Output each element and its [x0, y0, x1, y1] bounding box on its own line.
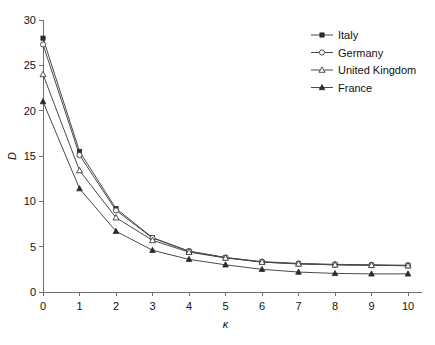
line-chart: 051015202530 012345678910 D κ ItalyGerma…: [0, 0, 435, 345]
chart-figure: 051015202530 012345678910 D κ ItalyGerma…: [0, 0, 435, 345]
x-tick-label: 0: [40, 300, 46, 312]
x-tick-label: 5: [222, 300, 228, 312]
y-tick-label: 10: [24, 195, 36, 207]
data-point: [77, 152, 82, 157]
y-tick-label: 20: [24, 105, 36, 117]
legend-label: France: [338, 82, 372, 94]
legend-label: Germany: [338, 47, 384, 59]
y-tick-label: 5: [30, 241, 36, 253]
x-tick-label: 3: [149, 300, 155, 312]
x-tick-label: 6: [259, 300, 265, 312]
legend-marker-icon: [320, 33, 324, 37]
x-tick-label: 2: [113, 300, 119, 312]
x-tick-label: 1: [76, 300, 82, 312]
x-tick-label: 4: [186, 300, 192, 312]
y-tick-label: 0: [30, 286, 36, 298]
data-point: [40, 42, 45, 47]
y-tick-label: 15: [24, 150, 36, 162]
legend-label: Italy: [338, 29, 359, 41]
data-point: [113, 208, 118, 213]
y-axis-title: D: [6, 152, 18, 160]
x-tick-label: 7: [295, 300, 301, 312]
legend-marker-icon: [319, 50, 324, 55]
x-tick-label: 9: [368, 300, 374, 312]
legend-label: United Kingdom: [338, 64, 416, 76]
y-tick-label: 30: [24, 14, 36, 26]
x-tick-label: 10: [402, 300, 414, 312]
x-tick-label: 8: [332, 300, 338, 312]
y-tick-label: 25: [24, 59, 36, 71]
x-axis-title: κ: [223, 318, 229, 330]
data-point: [41, 36, 45, 40]
